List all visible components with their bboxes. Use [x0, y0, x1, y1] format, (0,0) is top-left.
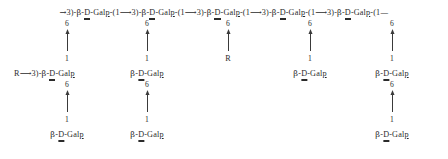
branch-position-label: 6	[145, 19, 149, 28]
backbone-end-linkage: -(1—	[370, 8, 388, 17]
branch-anomeric-label: 1	[390, 54, 394, 63]
branch-anomeric-label: 1	[65, 54, 69, 63]
branch-position-label: 6	[226, 19, 230, 28]
branch-anomeric-label: 1	[308, 54, 312, 63]
arrow-up-icon	[63, 90, 72, 112]
backbone-residue-3: β-D-Galp	[207, 8, 240, 17]
branch-residue-col2-level3: β-D-Galp	[130, 129, 163, 139]
arrow-up-icon	[63, 29, 72, 51]
backbone-start-arrow: →3)-	[59, 8, 76, 17]
branch-anomeric-label: 1	[390, 115, 394, 124]
backbone-residue-1: β-D-Galp	[76, 8, 109, 17]
branch-residue-col2-level2: β-D-Galp	[130, 68, 163, 78]
branch-anomeric-label: 1	[145, 54, 149, 63]
arrow-up-icon	[388, 29, 397, 51]
branch-position-label: 6	[65, 19, 69, 28]
branch-residue-col5-level2: β-D-Galp	[375, 68, 408, 78]
branch-residue-col5-level3: β-D-Galp	[375, 129, 408, 139]
backbone-residue-4: β-D-Galp	[272, 8, 305, 17]
branch-position-label: 6	[65, 80, 69, 89]
branch-anomeric-label: 1	[65, 115, 69, 124]
branch-position-label: 6	[390, 19, 394, 28]
polysaccharide-structure-diagram: →3)-β-D-Galp-(1⟶3)-β-D-Galp-(1⟶3)-β-D-Ga…	[0, 0, 448, 159]
r-group-arrow-icon: ⟶	[20, 68, 32, 78]
branch-residue-col1-level2: R⟶3)-β-D-Galp	[14, 68, 75, 78]
backbone-residue-5: β-D-Galp	[337, 8, 370, 17]
backbone-residue-2: β-D-Galp	[142, 8, 175, 17]
branch-position-label: 6	[390, 80, 394, 89]
arrow-up-icon	[143, 90, 152, 112]
branch-residue-col3-level2: R	[225, 54, 230, 63]
backbone-linkage-1: -(1⟶3)-	[110, 8, 142, 17]
branch-position-label: 6	[308, 19, 312, 28]
backbone-linkage-3: -(1⟶3)-	[240, 8, 272, 17]
backbone-linkage-2: -(1⟶3)-	[175, 8, 207, 17]
backbone-linkage-4: -(1⟶3)-	[305, 8, 337, 17]
arrow-up-icon	[143, 29, 152, 51]
branch-residue-col1-level3: β-D-Galp	[50, 129, 83, 139]
branch-residue-col4-level2: β-D-Galp	[293, 68, 326, 78]
backbone-chain: →3)-β-D-Galp-(1⟶3)-β-D-Galp-(1⟶3)-β-D-Ga…	[0, 8, 448, 17]
arrow-up-icon	[224, 29, 233, 51]
arrow-up-icon	[388, 90, 397, 112]
branch-position-label: 6	[145, 80, 149, 89]
arrow-up-icon	[306, 29, 315, 51]
branch-anomeric-label: 1	[145, 115, 149, 124]
